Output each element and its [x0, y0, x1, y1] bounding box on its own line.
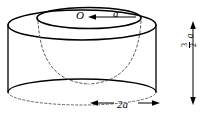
height-label: 3 2 a: [181, 34, 198, 49]
center-point-label: O: [76, 10, 84, 21]
diameter-arrowhead-right: [152, 100, 160, 106]
bottom-ellipse-back-dashed: [8, 92, 156, 105]
paraboloid-left-branch: [38, 21, 89, 84]
height-denominator: 2: [189, 42, 198, 48]
height-symbol: a: [185, 34, 195, 40]
height-arrowhead-bottom: [190, 97, 196, 105]
paraboloid-right-branch: [89, 21, 141, 84]
cylinder-paraboloid-diagram: O) ============ --> ) ============ -->: [0, 0, 205, 118]
figure-container: O) ============ --> ) ============ --> O…: [0, 0, 205, 118]
height-arrowhead-top: [190, 21, 196, 29]
radius-arrowhead: [88, 14, 96, 20]
height-fraction: 3 2: [181, 42, 198, 48]
bottom-ellipse-front-solid: [8, 79, 156, 92]
height-numerator: 3: [181, 42, 189, 48]
inner-radius-label: a: [113, 8, 119, 19]
outer-diameter-label: 2a: [117, 99, 128, 110]
